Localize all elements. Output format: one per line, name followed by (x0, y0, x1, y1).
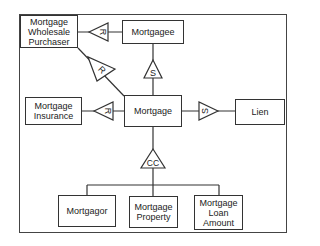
entity-lien: Lien (235, 99, 285, 125)
entity-mortgagee: Mortgagee (122, 20, 184, 44)
svg-text:R: R (103, 108, 113, 115)
entity-mortgage-insurance: Mortgage Insurance (25, 97, 82, 125)
entity-mortgage-wholesale-purchaser: Mortgage Wholesale Purchaser (20, 15, 78, 48)
svg-text:CC: CC (147, 158, 159, 168)
entity-mortgagor: Mortgagor (58, 195, 116, 227)
svg-text:S: S (150, 68, 156, 78)
svg-text:S: S (200, 108, 210, 114)
svg-text:R: R (98, 29, 108, 36)
entity-mortgage-property: Mortgage Property (129, 196, 178, 228)
entity-mortgage: Mortgage (124, 95, 182, 127)
entity-mortgage-loan-amount: Mortgage Loan Amount (194, 195, 243, 230)
